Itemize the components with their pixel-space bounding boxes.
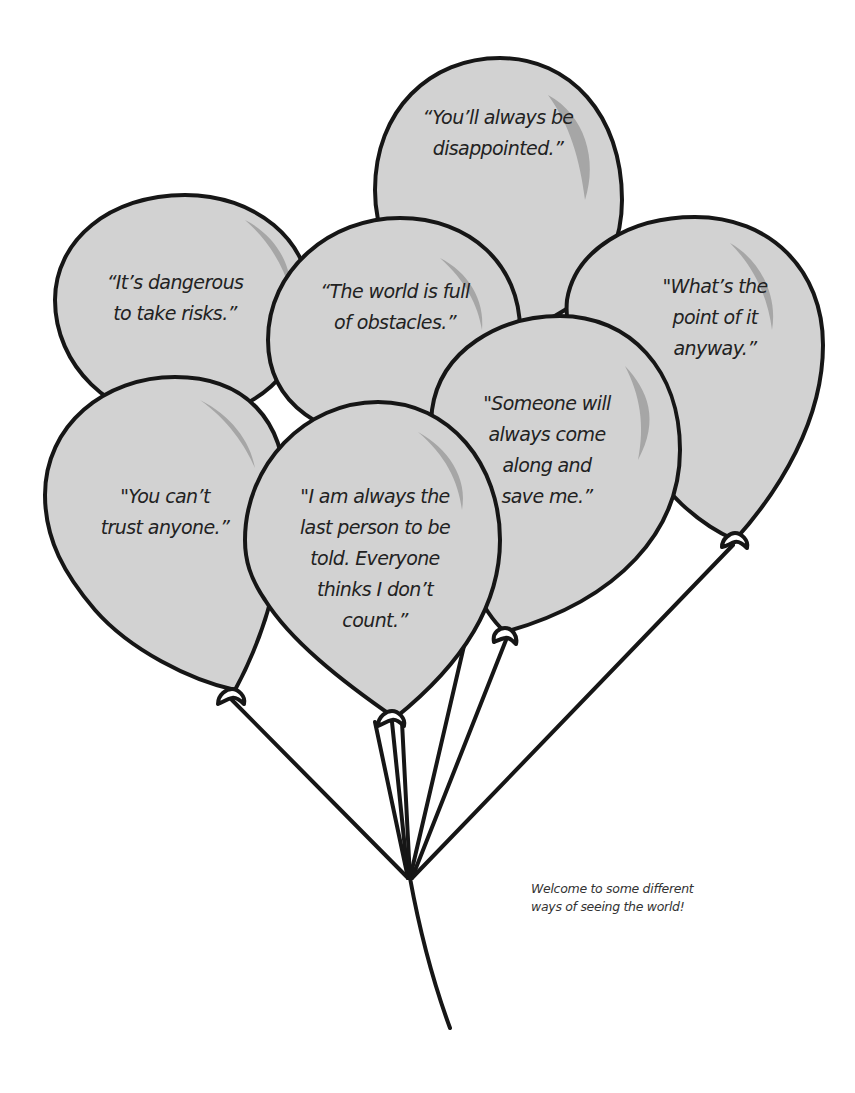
- balloon-illustration: “You’ll always be disappointed.” “It’s d…: [0, 0, 855, 1093]
- balloon-text-lower-left: "You can’t trust anyone.”: [85, 481, 245, 543]
- welcome-caption: Welcome to some different ways of seeing…: [531, 880, 761, 916]
- balloon-text-top-center: “You’ll always be disappointed.”: [388, 102, 608, 164]
- string-lower-left: [232, 700, 408, 878]
- balloon-text-upper-right: "What’s the point of it anyway.”: [640, 271, 790, 364]
- main-string: [410, 878, 450, 1028]
- balloon-text-upper-left: “It’s dangerous to take risks.”: [85, 267, 265, 329]
- balloon-text-front-center: "I am always the last person to be told.…: [280, 481, 470, 636]
- balloon-text-middle-center: “The world is full of obstacles.”: [300, 276, 490, 338]
- balloon-text-middle-right: "Someone will always come along and save…: [472, 388, 622, 512]
